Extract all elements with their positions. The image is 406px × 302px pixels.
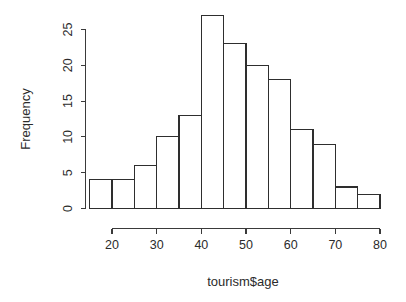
x-tick-label: 70 (328, 238, 342, 252)
x-tick-label: 80 (373, 238, 387, 252)
plot-canvas: 0510152025 20304050607080 tourism$age Fr… (0, 0, 406, 302)
y-tick-label: 15 (61, 94, 75, 108)
x-axis-title: tourism$age (207, 274, 279, 289)
histogram-bar (134, 166, 156, 209)
y-tick-label: 5 (61, 169, 75, 176)
y-tick-label: 25 (61, 23, 75, 37)
histogram-bar (268, 80, 290, 209)
y-axis-title: Frequency (18, 88, 33, 150)
histogram-bar (246, 65, 268, 208)
histogram-bar (157, 137, 179, 209)
histogram-bar (313, 144, 335, 208)
y-tick-label: 10 (61, 130, 75, 144)
histogram-bar (112, 180, 134, 209)
histogram-bar (201, 15, 223, 208)
x-tick-label: 30 (150, 238, 164, 252)
histogram-bar (358, 194, 380, 208)
x-tick-labels: 20304050607080 (105, 238, 387, 252)
histogram-bar (224, 44, 246, 209)
x-tick-label: 40 (194, 238, 208, 252)
histogram-bar (291, 130, 313, 209)
histogram-bar (90, 180, 112, 209)
histogram-bar (335, 187, 357, 208)
histogram-plot: 0510152025 20304050607080 tourism$age Fr… (0, 0, 406, 302)
x-tick-label: 60 (284, 238, 298, 252)
y-tick-label: 20 (61, 58, 75, 72)
x-axis (112, 229, 380, 234)
y-axis (81, 30, 86, 209)
histogram-bar (179, 115, 201, 208)
bars-group (90, 15, 380, 208)
y-tick-label: 0 (61, 205, 75, 212)
x-tick-label: 20 (105, 238, 119, 252)
y-tick-labels: 0510152025 (61, 23, 75, 212)
x-tick-label: 50 (239, 238, 253, 252)
